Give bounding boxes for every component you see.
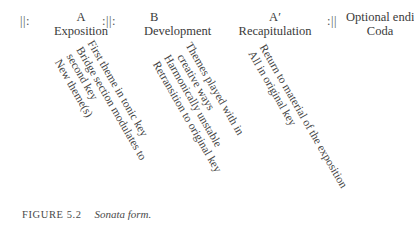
figure-title: Sonata form. [94, 208, 151, 220]
coda-name: Coda [346, 24, 414, 38]
development-details: Themes played with in creative ways Harm… [151, 40, 257, 174]
recapitulation-detail: All in original key [246, 48, 339, 196]
figure-caption: FIGURE 5.2 Sonata form. [22, 208, 151, 220]
repeat-end-sign: :|| [327, 14, 337, 29]
section-b-symbol: B [144, 10, 210, 24]
section-b-name: Development [144, 24, 210, 38]
sonata-form-figure: ||: A Exposition :||: B Development A′ R… [0, 0, 414, 225]
repeat-start-sign: ||: [20, 14, 30, 29]
coda-symbol: Optional ending [346, 10, 414, 24]
exposition-details: First theme in tonic key Bridge section … [53, 38, 161, 174]
coda-header: Optional ending Coda [346, 10, 414, 38]
figure-label: FIGURE 5.2 [22, 209, 82, 220]
section-a-prime-header: A′ Recapitulation [232, 10, 318, 38]
repeat-mid-sign: :||: [102, 14, 116, 29]
section-a-prime-name: Recapitulation [232, 24, 318, 38]
section-b-header: B Development [144, 10, 210, 38]
recapitulation-detail: Return to material of the exposition [257, 42, 350, 190]
recapitulation-details: Return to material of the exposition All… [246, 42, 350, 196]
section-a-prime-symbol: A′ [232, 10, 318, 24]
